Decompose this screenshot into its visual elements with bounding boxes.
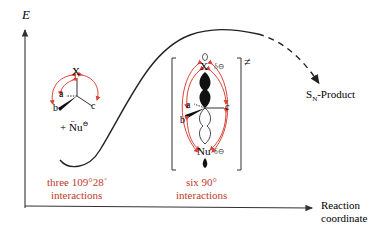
x-axis-label-line2: coordinate — [321, 213, 367, 224]
ts-substituent-c: c — [225, 102, 229, 112]
reactant-caption-line2: interactions — [51, 190, 102, 201]
ts-substituent-a: a — [186, 100, 190, 110]
reactant-center-atom: X — [72, 66, 80, 77]
nucleophile-charge: ⊖ — [82, 120, 88, 128]
product-label-rest: -Product — [317, 88, 355, 100]
ts-substituent-b: b — [180, 115, 185, 125]
ts-caption-line2: interactions — [176, 190, 227, 201]
x-axis-label-line1: Reaction — [321, 200, 360, 211]
reactant-substituent-a: a — [59, 89, 63, 99]
transition-state-symbol: ≠ — [244, 56, 251, 68]
ts-top-atom: X — [200, 61, 208, 72]
reactant-substituent-b: b — [53, 103, 58, 113]
nucleophile-text: + N̈u — [60, 121, 82, 133]
nucleophile-label: + N̈u⊖ — [60, 121, 88, 133]
ts-partial-charge-bottom: δ⊖ — [214, 148, 224, 156]
product-label: SN-Product — [306, 89, 355, 103]
y-axis-label: E — [22, 8, 30, 21]
reactant-substituent-c: c — [91, 101, 95, 111]
energy-curve-dashed — [258, 34, 318, 82]
x-axis — [25, 206, 312, 208]
ts-bottom-atom: Nu — [197, 146, 210, 157]
reactant-caption-line1: three 109°28´ — [47, 177, 107, 188]
energy-curve — [60, 30, 258, 167]
ts-partial-charge-top: δ⊖ — [214, 63, 224, 71]
ts-caption-line1: six 90° — [186, 177, 217, 188]
